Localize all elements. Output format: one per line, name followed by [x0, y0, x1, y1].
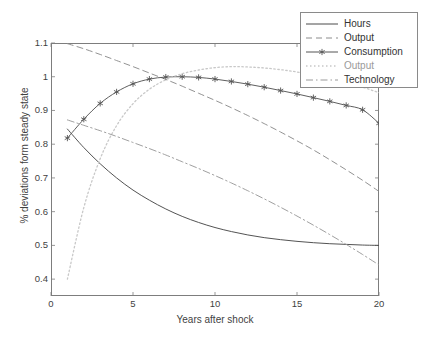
legend-label: Output [344, 60, 374, 72]
legend-line-sample [305, 46, 339, 58]
x-axis-tick-labels: 05101520 [0, 299, 426, 315]
chart-legend: HoursOutputConsumptionOutputTechnology [300, 12, 418, 88]
x-tick-label: 10 [195, 299, 235, 309]
legend-item-1[interactable]: Hours [305, 17, 413, 31]
legend-item-4[interactable]: Output [305, 59, 413, 73]
y-tick-label: 0.4 [4, 274, 48, 284]
legend-label: Output [344, 32, 374, 44]
legend-item-2[interactable]: Output [305, 31, 413, 45]
x-tick-label: 15 [277, 299, 317, 309]
legend-line-sample [305, 74, 339, 86]
legend-line-sample [305, 32, 339, 44]
y-tick-label: 1.1 [4, 38, 48, 48]
x-tick-label: 5 [113, 299, 153, 309]
legend-line-sample [305, 60, 339, 72]
legend-line-sample [305, 18, 339, 30]
x-axis-label: Years after shock [51, 314, 379, 325]
legend-label: Hours [344, 18, 371, 30]
x-tick-label: 0 [31, 299, 71, 309]
legend-item-5[interactable]: Technology [305, 73, 413, 87]
legend-label: Consumption [344, 46, 403, 58]
legend-label: Technology [344, 74, 395, 86]
y-axis-label: % deviations form steady state [19, 56, 30, 256]
legend-item-3[interactable]: Consumption [305, 45, 413, 59]
figure: 0.40.50.60.70.80.911.1 05101520 % deviat… [0, 0, 426, 345]
x-tick-label: 20 [359, 299, 399, 309]
